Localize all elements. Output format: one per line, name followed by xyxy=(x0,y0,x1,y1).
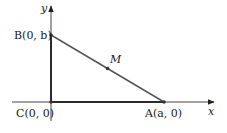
coordinate-diagram: y x B(0, b) C(0, 0) A(a, 0) M xyxy=(0,0,227,133)
point-m xyxy=(106,67,110,71)
x-axis-label: x xyxy=(208,105,215,118)
point-m-label: M xyxy=(109,53,122,66)
y-axis-label: y xyxy=(40,2,48,15)
point-c xyxy=(49,100,53,104)
point-c-label: C(0, 0) xyxy=(16,107,54,120)
point-a-label: A(a, 0) xyxy=(144,107,182,120)
point-a xyxy=(162,100,166,104)
point-b-label: B(0, b) xyxy=(14,29,52,42)
